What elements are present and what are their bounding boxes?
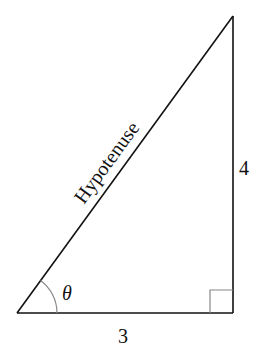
triangle-diagram: θ 3 4 Hypotenuse bbox=[0, 0, 275, 360]
base-label: 3 bbox=[118, 325, 128, 347]
hypotenuse-side bbox=[17, 16, 233, 313]
right-angle-marker bbox=[210, 290, 233, 313]
angle-arc bbox=[41, 281, 58, 313]
vertical-label: 4 bbox=[239, 157, 249, 179]
angle-label: θ bbox=[62, 282, 72, 304]
hypotenuse-label: Hypotenuse bbox=[69, 117, 144, 208]
